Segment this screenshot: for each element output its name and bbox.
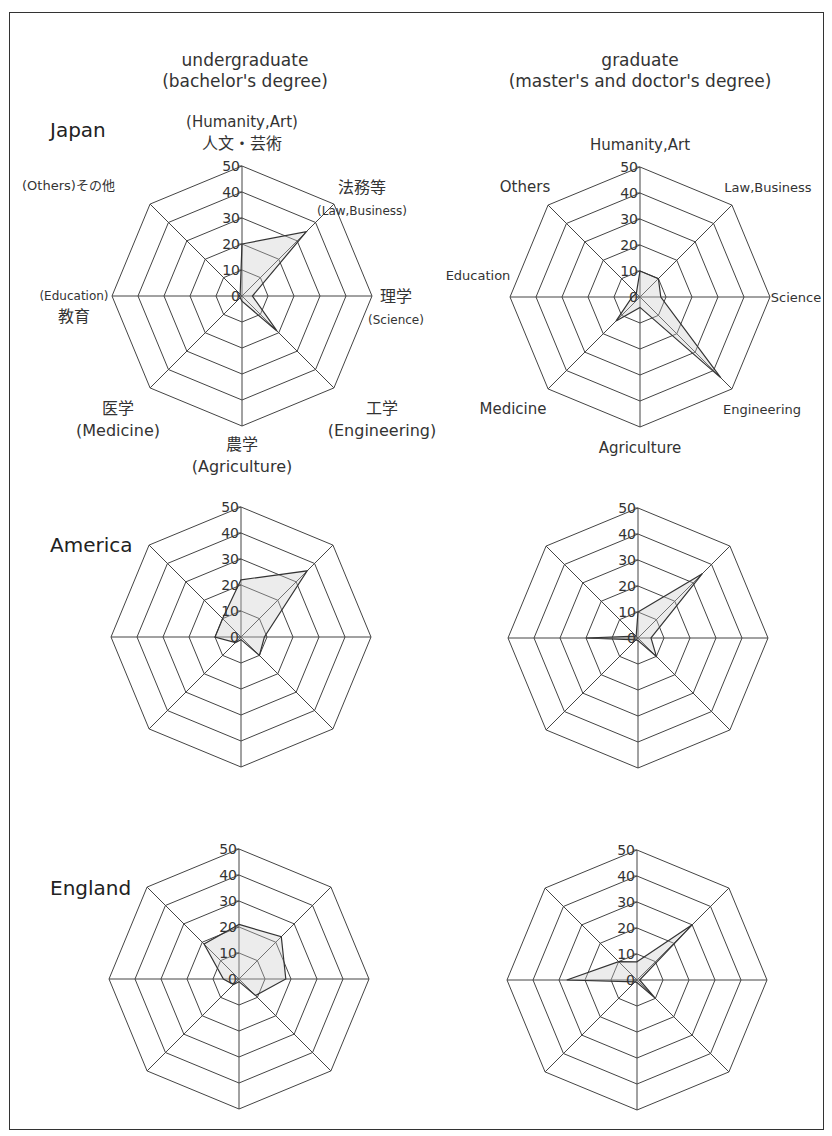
axis-label-japan-undergraduate: (Engineering) bbox=[328, 421, 436, 440]
tick-label: 40 bbox=[219, 867, 237, 883]
axis-label-japan-undergraduate: (Agriculture) bbox=[192, 457, 292, 476]
axis-label-japan-undergraduate: 理学 bbox=[380, 287, 412, 306]
axis-label-japan-undergraduate: (Humanity,Art) bbox=[186, 113, 298, 131]
tick-label: 20 bbox=[618, 578, 636, 594]
data-polygon bbox=[239, 232, 306, 331]
axis-label-japan-graduate: Law,Business bbox=[724, 180, 812, 195]
axis-label-japan-graduate: Medicine bbox=[479, 400, 546, 418]
data-polygon bbox=[586, 574, 702, 657]
axis-label-japan-undergraduate: 教育 bbox=[58, 307, 90, 326]
tick-label: 40 bbox=[222, 184, 240, 200]
tick-label: 30 bbox=[222, 210, 240, 226]
axis-label-japan-undergraduate: (Law,Business) bbox=[317, 204, 407, 218]
axis-label-japan-undergraduate: 農学 bbox=[226, 435, 258, 454]
data-polygon bbox=[204, 924, 286, 995]
radar-charts: 0102030405001020304050010203040500102030… bbox=[0, 0, 832, 1136]
tick-label: 30 bbox=[221, 551, 239, 567]
tick-label: 50 bbox=[617, 842, 635, 858]
axis-label-japan-graduate: Engineering bbox=[723, 402, 801, 417]
axis-label-japan-graduate: Education bbox=[446, 268, 511, 283]
tick-label: 40 bbox=[617, 868, 635, 884]
axis-label-japan-undergraduate: (Education) bbox=[39, 289, 108, 303]
axis-label-japan-undergraduate: 法務等 bbox=[338, 178, 386, 197]
axis-label-japan-graduate: Science bbox=[771, 290, 821, 305]
tick-label: 50 bbox=[219, 841, 237, 857]
radar-chart-england-graduate: 01020304050 bbox=[507, 842, 767, 1110]
tick-label: 30 bbox=[617, 894, 635, 910]
tick-label: 20 bbox=[221, 577, 239, 593]
tick-label: 10 bbox=[620, 263, 638, 279]
axis-label-japan-graduate: Agriculture bbox=[599, 439, 682, 457]
radar-chart-america-undergraduate: 01020304050 bbox=[111, 499, 371, 767]
axis-label-japan-undergraduate: (Medicine) bbox=[76, 421, 160, 440]
tick-label: 20 bbox=[222, 236, 240, 252]
tick-label: 50 bbox=[620, 159, 638, 175]
axis-label-japan-graduate: Humanity,Art bbox=[590, 136, 690, 154]
radar-chart-england-undergraduate: 01020304050 bbox=[109, 841, 369, 1109]
tick-label: 20 bbox=[617, 920, 635, 936]
axis-label-japan-graduate: Others bbox=[500, 178, 551, 196]
axis-label-japan-undergraduate: 医学 bbox=[102, 399, 134, 418]
tick-label: 50 bbox=[618, 500, 636, 516]
tick-label: 30 bbox=[620, 211, 638, 227]
tick-label: 10 bbox=[219, 945, 237, 961]
tick-label: 40 bbox=[618, 526, 636, 542]
radar-chart-japan-undergraduate: 01020304050 bbox=[112, 158, 372, 426]
radar-chart-japan-graduate: 01020304050 bbox=[510, 159, 770, 427]
data-polygon bbox=[616, 271, 721, 378]
axis-label-japan-undergraduate: 工学 bbox=[366, 399, 398, 418]
tick-label: 10 bbox=[221, 603, 239, 619]
axis-label-japan-undergraduate: (Science) bbox=[368, 313, 424, 327]
axis-label-japan-undergraduate: (Others)その他 bbox=[22, 178, 115, 193]
tick-label: 10 bbox=[618, 604, 636, 620]
tick-label: 30 bbox=[618, 552, 636, 568]
radar-chart-america-graduate: 01020304050 bbox=[508, 500, 768, 768]
tick-label: 50 bbox=[222, 158, 240, 174]
axis-label-japan-undergraduate: 人文・芸術 bbox=[202, 134, 282, 153]
tick-label: 30 bbox=[219, 893, 237, 909]
tick-label: 20 bbox=[620, 237, 638, 253]
tick-label: 10 bbox=[617, 946, 635, 962]
tick-label: 50 bbox=[221, 499, 239, 515]
tick-label: 40 bbox=[221, 525, 239, 541]
tick-label: 10 bbox=[222, 262, 240, 278]
tick-label: 20 bbox=[219, 919, 237, 935]
tick-label: 40 bbox=[620, 185, 638, 201]
